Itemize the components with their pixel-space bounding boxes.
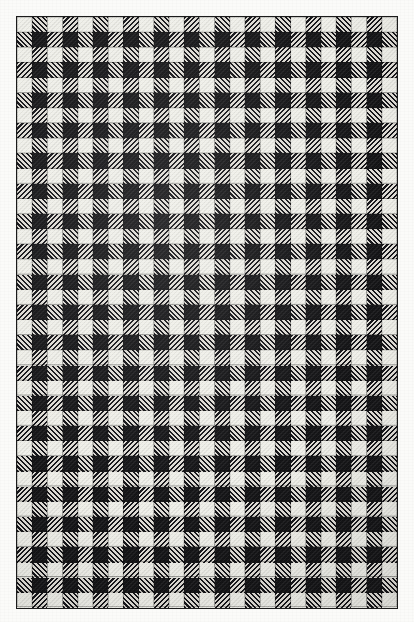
weave-cell [32,123,47,138]
weave-cell [184,305,199,320]
weave-cell [169,532,184,547]
weave-cell [260,547,275,562]
weave-cell [93,532,108,547]
weave-cell [215,32,230,47]
weave-cell [123,108,138,123]
weave-cell [123,169,138,184]
weave-cell [367,335,382,350]
weave-cell [123,487,138,502]
weave-cell [139,350,154,365]
weave-cell [245,381,260,396]
weave-cell [321,184,336,199]
weave-cell [245,517,260,532]
weave-cell [230,426,245,441]
weave-cell [199,275,214,290]
weave-cell [336,199,351,214]
weave-cell [78,547,93,562]
weave-cell [306,108,321,123]
weave-cell [123,78,138,93]
weave-cell [32,153,47,168]
weave-cell [321,108,336,123]
weave-cell [230,290,245,305]
weave-cell [291,244,306,259]
weave-cell [382,502,397,517]
weave-cell [17,578,32,593]
weave-cell [139,426,154,441]
weave-cell [382,472,397,487]
weave-cell [154,396,169,411]
weave-cell [291,62,306,77]
weave-cell [47,138,62,153]
weave-cell [215,593,230,608]
weave-cell [321,62,336,77]
weave-cell [63,153,78,168]
weave-cell [184,563,199,578]
weave-cell [169,229,184,244]
weave-cell [32,456,47,471]
weave-cell [63,366,78,381]
weave-cell [306,320,321,335]
weave-cell [17,153,32,168]
weave-cell [321,214,336,229]
weave-cell [275,517,290,532]
weave-cell [260,381,275,396]
weave-cell [154,335,169,350]
weave-cell [123,153,138,168]
weave-cell [108,138,123,153]
weave-cell [199,169,214,184]
weave-cell [108,441,123,456]
weave-cell [321,381,336,396]
weave-cell [351,350,366,365]
weave-cell [93,169,108,184]
weave-cell [123,47,138,62]
weave-cell [260,108,275,123]
weave-cell [47,350,62,365]
weave-cell [260,153,275,168]
weave-cell [169,396,184,411]
weave-cell [275,62,290,77]
weave-cell [245,32,260,47]
weave-cell [199,229,214,244]
weave-cell [47,381,62,396]
weave-cell [306,578,321,593]
weave-cell [336,472,351,487]
weave-cell [351,441,366,456]
weave-cell [139,244,154,259]
weave-cell [306,487,321,502]
weave-cell [47,214,62,229]
weave-cell [275,214,290,229]
weave-cell [47,563,62,578]
weave-cell [230,517,245,532]
weave-cell [169,123,184,138]
weave-cell [382,153,397,168]
weave-cell [382,320,397,335]
weave-cell [63,305,78,320]
weave-cell [382,47,397,62]
weave-cell [108,335,123,350]
weave-cell [47,487,62,502]
weave-cell [199,184,214,199]
weave-cell [291,305,306,320]
weave-cell [291,320,306,335]
weave-cell [123,32,138,47]
weave-cell [184,169,199,184]
weave-cell [32,578,47,593]
weave-cell [245,108,260,123]
weave-cell [93,93,108,108]
weave-cell [78,244,93,259]
weave-cell [93,62,108,77]
weave-cell [291,547,306,562]
weave-cell [78,456,93,471]
weave-cell [351,517,366,532]
weave-cell [199,532,214,547]
weave-cell [108,17,123,32]
weave-cell [199,259,214,274]
weave-cell [17,472,32,487]
weave-cell [169,593,184,608]
weave-cell [260,350,275,365]
weave-cell [351,17,366,32]
weave-cell [382,199,397,214]
weave-cell [108,214,123,229]
weave-cell [32,184,47,199]
weave-cell [367,381,382,396]
